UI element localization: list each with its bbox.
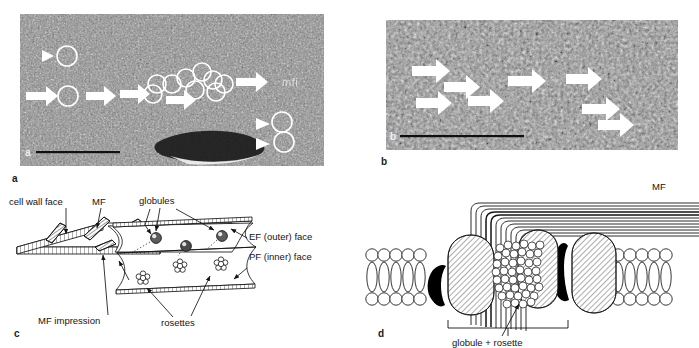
panel-c-label-mf-impression: MF impression [38,316,100,326]
panel-c-label-mf: MF [92,197,106,207]
panel-a-corner-text: mfi [282,76,298,88]
panel-d-leader-line [502,304,519,336]
panel-b-image: b [386,20,678,150]
panel-a-image: mfi a [20,14,324,166]
panel-c-label-rosettes: rosettes [161,318,195,328]
panel-d-label-mf: MF [652,182,666,192]
figure-root: mfi a a [0,0,699,348]
panel-c-label-cell-wall-face: cell wall face [9,197,63,207]
panel-d-label-globule-rosette: globule + rosette [452,338,523,348]
panel-a-inner-letter: a [25,147,31,158]
panel-b-inner-letter: b [390,131,396,142]
panel-c-diagram: cell wall face MF globules EF (outer) fa… [0,190,350,348]
panel-letter-c: c [14,329,20,339]
panel-b-micrograph: b [386,20,678,150]
panel-letter-a: a [12,174,18,184]
panel-letter-b: b [381,157,387,167]
panel-c-label-globules: globules [139,196,174,206]
panel-c-rosettes [136,257,228,284]
panel-letter-d: d [378,329,384,339]
panel-d-crescent-left [428,265,446,306]
panel-a-scale-bar [36,151,120,153]
panel-b-scale-bar [400,135,524,137]
panel-d-drawing [350,180,699,348]
panel-c-label-pf-inner-face: PF (inner) face [249,252,312,262]
panel-c-label-ef-outer-face: EF (outer) face [249,232,312,242]
panel-d-diagram: MF globule + rosette [350,180,699,348]
panel-a-micrograph: mfi a [20,14,324,166]
panel-d-bracket [448,320,568,336]
panel-d-bilayer-left [366,249,426,305]
